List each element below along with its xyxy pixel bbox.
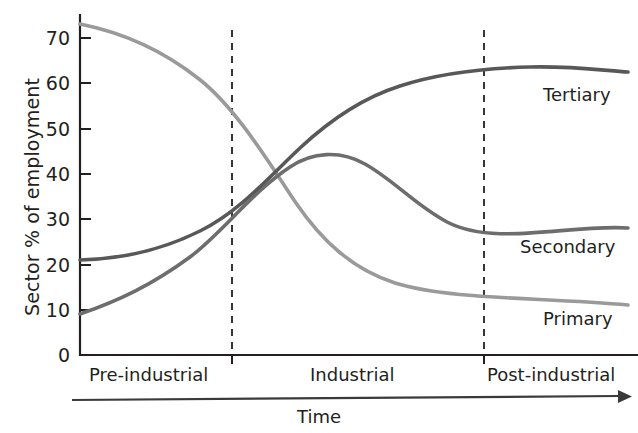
x-tick-marks bbox=[232, 355, 484, 364]
x-phase-label-pre-industrial: Pre-industrial bbox=[89, 366, 208, 384]
time-axis-arrow-line bbox=[72, 396, 618, 400]
x-phase-label-industrial: Industrial bbox=[310, 366, 394, 384]
series-line-secondary bbox=[80, 155, 628, 314]
series-label-primary: Primary bbox=[543, 310, 613, 328]
series-label-secondary: Secondary bbox=[520, 238, 615, 256]
time-axis-arrowhead-icon bbox=[618, 390, 632, 403]
x-axis-title: Time bbox=[0, 408, 638, 426]
series-label-tertiary: Tertiary bbox=[543, 86, 611, 104]
chart-figure: Sector % of employment 70 60 50 40 30 20… bbox=[0, 0, 638, 433]
y-tick-marks bbox=[80, 38, 91, 310]
x-phase-label-post-industrial: Post-industrial bbox=[487, 366, 615, 384]
